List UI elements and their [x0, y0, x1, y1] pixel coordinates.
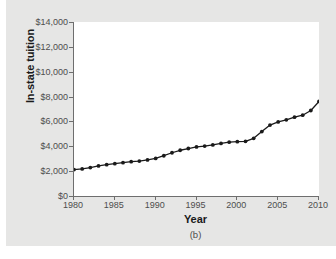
x-axis-tick-label: 2000 — [216, 200, 256, 210]
data-point — [121, 161, 125, 165]
x-axis-tick-label: 2010 — [298, 200, 336, 210]
data-point — [162, 154, 166, 158]
data-point — [129, 160, 133, 164]
data-point — [211, 143, 215, 147]
x-axis-tick-label: 1980 — [53, 200, 93, 210]
data-point — [113, 162, 117, 166]
x-axis-tick-label: 2005 — [257, 200, 297, 210]
plot-area — [73, 22, 319, 197]
panel-caption: (b) — [73, 229, 318, 240]
y-axis-tick-label: $10,000 — [12, 67, 68, 77]
x-axis-tick-label: 1995 — [176, 200, 216, 210]
data-point — [154, 157, 158, 161]
data-point — [80, 167, 84, 171]
data-point — [284, 118, 288, 122]
data-point — [170, 151, 174, 155]
data-point — [137, 159, 141, 163]
y-axis-tick-labels: $0$2,000$4,000$6,000$8,000$10,000$12,000… — [8, 22, 68, 196]
tuition-markers — [74, 100, 319, 172]
data-point — [88, 166, 92, 170]
line-series-svg — [74, 22, 319, 196]
data-point — [235, 140, 239, 144]
data-point — [74, 168, 76, 172]
data-point — [276, 120, 280, 124]
y-axis-tick-label: $12,000 — [12, 42, 68, 52]
data-point — [252, 136, 256, 140]
data-point — [146, 158, 150, 162]
data-point — [105, 163, 109, 167]
data-point — [309, 109, 313, 113]
tuition-line — [74, 101, 319, 169]
data-point — [178, 148, 182, 152]
data-point — [293, 115, 297, 119]
y-axis-tick-label: $4,000 — [12, 141, 68, 151]
x-axis-tick-label: 1990 — [135, 200, 175, 210]
x-axis-tick-label: 1985 — [94, 200, 134, 210]
data-point — [244, 139, 248, 143]
y-axis-tick-label: $2,000 — [12, 166, 68, 176]
figure-root: In-state tuition $0$2,000$4,000$6,000$8,… — [0, 0, 336, 259]
y-axis-tick-label: $14,000 — [12, 17, 68, 27]
data-point — [219, 142, 223, 146]
data-point — [186, 147, 190, 151]
data-point — [203, 144, 207, 148]
data-point — [195, 145, 199, 149]
data-point — [97, 164, 101, 168]
x-axis-tick-labels: 1980198519901995200020052010 — [73, 200, 318, 214]
y-axis-tick-label: $8,000 — [12, 92, 68, 102]
data-point — [268, 123, 272, 127]
data-point — [260, 130, 264, 134]
x-axis-title: Year — [73, 213, 318, 225]
y-axis-tick-label: $6,000 — [12, 116, 68, 126]
data-point — [301, 113, 305, 117]
data-point — [227, 140, 231, 144]
